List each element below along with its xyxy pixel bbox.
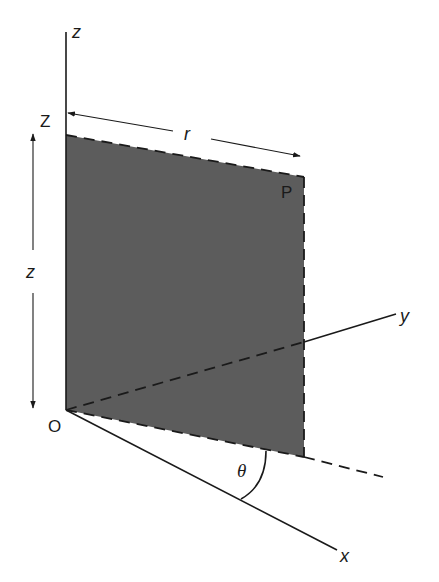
cylindrical-coordinates-diagram: z y x O Z P r z θ: [0, 0, 439, 582]
z-dimension-label: z: [25, 262, 35, 282]
shaded-plane: [66, 135, 304, 457]
point-p-label: P: [281, 183, 292, 202]
origin-label: O: [48, 417, 61, 436]
plane-bottom-extension: [304, 457, 383, 477]
r-dimension-left: [68, 113, 173, 131]
height-point-label: Z: [40, 112, 50, 131]
r-dimension-right: [211, 139, 300, 156]
y-axis: [304, 314, 396, 342]
r-dimension-label: r: [184, 124, 191, 144]
theta-label: θ: [237, 460, 246, 481]
x-axis-label: x: [339, 546, 350, 566]
y-axis-label: y: [398, 306, 410, 326]
z-axis-label: z: [71, 22, 81, 42]
